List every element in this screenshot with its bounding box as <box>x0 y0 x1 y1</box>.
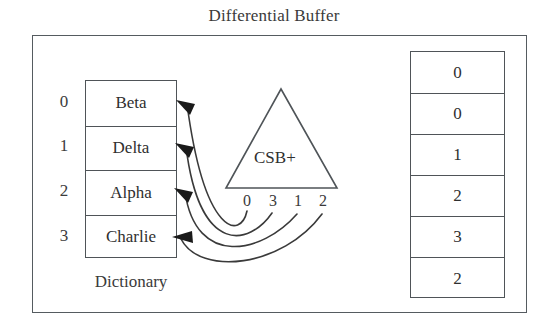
pointer-curve-key-2-to-charlie <box>181 214 322 262</box>
pointer-curve-key-3-to-delta <box>186 147 272 236</box>
arrowhead-to-beta <box>176 100 195 115</box>
diagram-vector-layer <box>0 0 548 327</box>
csb-tree-triangle <box>226 89 337 188</box>
pointer-curve-key-1-to-alpha <box>185 192 297 247</box>
diagram-canvas: Differential Buffer 0 1 2 3 Beta Delta A… <box>0 0 548 327</box>
arrowhead-to-alpha <box>174 188 193 203</box>
arrowhead-to-delta <box>175 143 194 158</box>
